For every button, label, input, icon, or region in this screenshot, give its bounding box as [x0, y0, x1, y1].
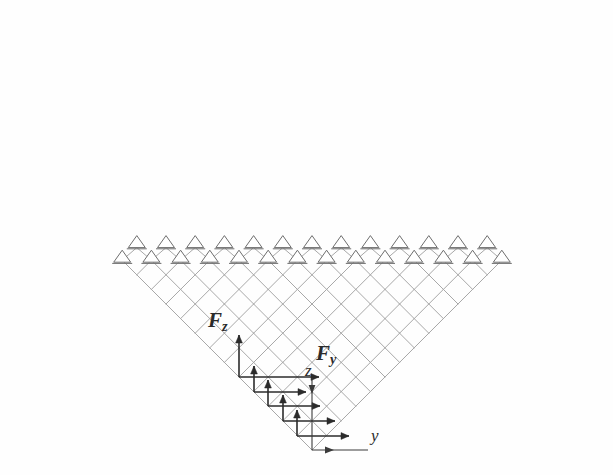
pin-support-upper: [333, 236, 350, 248]
pin-support-upper: [216, 236, 233, 248]
pin-support-upper: [420, 236, 437, 248]
force-z-label: Fz: [208, 310, 228, 333]
force-z-arrow: [265, 380, 272, 406]
force-z-arrow: [280, 395, 287, 421]
force-y-letter: F: [316, 341, 330, 365]
pin-support-lower: [406, 250, 423, 262]
force-z-letter: F: [208, 308, 222, 332]
pin-support-lower: [377, 250, 394, 262]
pin-support-upper: [128, 236, 145, 248]
pin-support-lower: [347, 250, 364, 262]
truss-figure: Fz Fy z y: [0, 0, 613, 475]
pin-support-upper: [274, 236, 291, 248]
axis-y-label: y: [371, 427, 379, 444]
y-axis: [312, 447, 368, 454]
pin-support-lower: [464, 250, 481, 262]
pin-support-upper: [158, 236, 175, 248]
pin-support-lower: [493, 250, 510, 262]
pin-support-upper: [362, 236, 379, 248]
force-y-label: Fy: [316, 343, 336, 366]
pin-support-lower: [231, 250, 248, 262]
pin-support-upper: [245, 236, 262, 248]
pin-support-upper: [450, 236, 467, 248]
force-z-arrow: [251, 366, 258, 392]
truss-drawing: [0, 0, 613, 475]
pin-support-upper: [304, 236, 321, 248]
pin-support-lower: [201, 250, 218, 262]
pin-support-upper: [479, 236, 496, 248]
pin-support-lower: [260, 250, 277, 262]
pin-support-upper: [391, 236, 408, 248]
pin-support-lower: [172, 250, 189, 262]
force-y-subscript: y: [330, 351, 336, 367]
pin-support-lower: [289, 250, 306, 262]
force-z-subscript: z: [222, 318, 228, 334]
pin-support-lower: [143, 250, 160, 262]
axis-z-label: z: [305, 362, 312, 379]
pin-support-upper: [187, 236, 204, 248]
pin-support-lower: [318, 250, 335, 262]
force-z-arrow: [236, 335, 243, 377]
support-symbols: [112, 236, 512, 264]
pin-support-lower: [435, 250, 452, 262]
pin-support-lower: [114, 250, 131, 262]
